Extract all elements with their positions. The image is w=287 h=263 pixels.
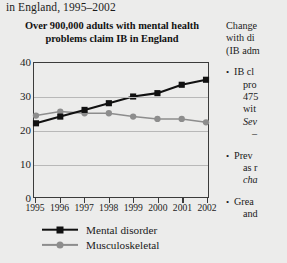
x-tick-label: 1999 bbox=[124, 202, 143, 213]
gridline bbox=[34, 165, 208, 166]
body-bullet-line: Sev bbox=[234, 116, 287, 128]
data-point-marker bbox=[203, 119, 209, 125]
x-tick-label: 1998 bbox=[99, 202, 118, 213]
y-tick-label: 30 bbox=[1, 90, 31, 102]
body-bullet-item: Greaand bbox=[226, 196, 287, 221]
x-tick-label: 1997 bbox=[75, 202, 94, 213]
body-bullet-line: Grea bbox=[234, 196, 254, 207]
caption-continuation-line: in England, 1995–2002 bbox=[6, 1, 116, 13]
chart-title: Over 900,000 adults with mental health p… bbox=[14, 19, 210, 45]
body-bullet-line: cha bbox=[234, 174, 287, 186]
plot-svg bbox=[34, 63, 208, 197]
body-bullet-line: Prev bbox=[234, 150, 253, 161]
body-bullet-line: and bbox=[234, 208, 287, 220]
body-bullet-item: Prevas rcha bbox=[226, 150, 287, 187]
body-paragraph: Changewith di(IB adm bbox=[226, 20, 287, 57]
body-paragraph-line: with di bbox=[226, 32, 287, 44]
data-point-marker bbox=[33, 120, 39, 126]
chart-legend: Mental disorderMusculoskeletal bbox=[42, 222, 212, 252]
data-point-marker bbox=[106, 100, 112, 106]
plot-area bbox=[33, 62, 209, 198]
y-tick-label: 40 bbox=[1, 56, 31, 68]
body-bullet-list: IB clpro475witSev–Prevas rchaGreaand bbox=[226, 66, 287, 220]
data-point-marker bbox=[154, 116, 160, 122]
data-point-marker bbox=[130, 113, 136, 119]
x-axis-labels: 19951996199719981999200020012002 bbox=[18, 202, 224, 216]
gridline bbox=[34, 131, 208, 132]
data-point-marker bbox=[81, 107, 87, 113]
x-tick-label: 2001 bbox=[173, 202, 192, 213]
body-text-column: Changewith di(IB adm IB clpro475witSev–P… bbox=[222, 0, 287, 263]
x-tick-label: 2000 bbox=[148, 202, 167, 213]
body-bullet-line: – bbox=[234, 128, 287, 140]
data-point-marker bbox=[106, 110, 112, 116]
legend-item: Musculoskeletal bbox=[42, 237, 212, 252]
body-bullet-line: wit bbox=[234, 103, 287, 115]
data-point-marker bbox=[179, 116, 185, 122]
body-bullet-item: IB clpro475witSev– bbox=[226, 66, 287, 140]
gridline bbox=[34, 97, 208, 98]
legend-swatch bbox=[42, 224, 78, 236]
data-point-marker bbox=[33, 112, 39, 118]
body-paragraph-line: Change bbox=[226, 20, 287, 32]
data-point-marker bbox=[57, 114, 63, 120]
y-tick-label: 20 bbox=[1, 124, 31, 136]
data-point-marker bbox=[179, 82, 185, 88]
legend-label: Mental disorder bbox=[78, 224, 157, 236]
legend-item: Mental disorder bbox=[42, 222, 212, 237]
y-axis-labels: 010203040 bbox=[0, 62, 31, 198]
x-tick-label: 1996 bbox=[50, 202, 69, 213]
x-tick-label: 2002 bbox=[197, 202, 216, 213]
y-tick-label: 10 bbox=[1, 158, 31, 170]
body-bullet-line: 475 bbox=[234, 91, 287, 103]
data-point-marker bbox=[203, 77, 209, 83]
legend-swatch bbox=[42, 239, 78, 251]
body-paragraph-line: (IB adm bbox=[226, 45, 287, 57]
body-bullet-line: pro bbox=[234, 79, 287, 91]
legend-label: Musculoskeletal bbox=[78, 239, 159, 251]
data-point-marker bbox=[154, 90, 160, 96]
chart-panel: in England, 1995–2002 Over 900,000 adult… bbox=[0, 0, 222, 263]
x-tick-label: 1995 bbox=[25, 202, 44, 213]
legend-marker-square bbox=[57, 226, 64, 233]
body-bullet-line: as r bbox=[234, 162, 287, 174]
legend-marker-circle bbox=[57, 241, 64, 248]
body-bullet-line: IB cl bbox=[234, 66, 254, 77]
